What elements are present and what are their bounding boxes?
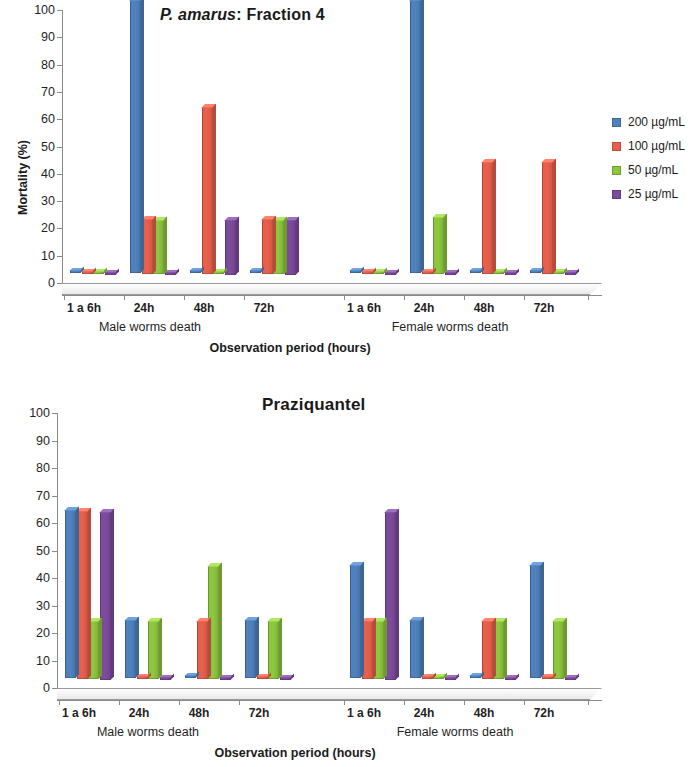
y-tick — [52, 578, 58, 579]
bar-face — [410, 620, 421, 678]
legend-item: 25 µg/mL — [612, 182, 685, 206]
bar-200µgmL-1a6h — [350, 565, 361, 678]
bar-side — [164, 216, 167, 274]
bar-25µgmL-48h — [505, 272, 516, 275]
bar-100µgmL-72h — [542, 676, 553, 679]
group-label-male: Male worms death — [99, 320, 201, 334]
bar-side — [421, 0, 424, 273]
chart-praziquantel: Praziquantel Mortality (%) 0102030405060… — [0, 390, 697, 767]
x-category-label: 72h — [254, 301, 275, 315]
chart1-y-axis-label: Mortality (%) — [16, 140, 30, 215]
y-tick — [52, 633, 58, 634]
x-tick — [588, 700, 589, 705]
bar-100µgmL-48h — [482, 162, 493, 274]
y-tick-label: 100 — [29, 406, 50, 420]
y-tick-label: 0 — [48, 276, 55, 290]
x-category-label: 24h — [129, 706, 150, 720]
bar-side — [421, 617, 424, 678]
bar-side — [99, 618, 102, 679]
y-tick-label: 90 — [41, 30, 55, 44]
y-tick-label: 70 — [36, 489, 50, 503]
bar-25µgmL-72h — [280, 677, 291, 680]
x-tick — [244, 295, 245, 300]
legend-label: 50 µg/mL — [628, 163, 678, 177]
y-tick-label: 0 — [43, 681, 50, 695]
y-tick-label: 90 — [36, 434, 50, 448]
y-tick-label: 20 — [36, 626, 50, 640]
x-axis-line — [62, 295, 602, 296]
bar-face — [410, 0, 421, 273]
chart-floor-edge — [590, 688, 602, 700]
y-tick-label: 50 — [36, 544, 50, 558]
bar-face — [350, 565, 361, 678]
bar-face — [65, 510, 76, 678]
bar-side — [273, 216, 276, 274]
bar-side — [564, 618, 567, 679]
y-tick-label: 60 — [41, 112, 55, 126]
legend-swatch-icon — [612, 166, 621, 175]
bar-100µgmL-24h — [137, 676, 148, 679]
bar-side — [384, 618, 387, 679]
bar-face — [482, 621, 493, 679]
group-label-male: Male worms death — [97, 725, 199, 739]
bar-side — [111, 509, 114, 680]
y-tick-label: 80 — [36, 461, 50, 475]
legend-item: 50 µg/mL — [612, 158, 685, 182]
bar-50µgmL-72h — [553, 621, 564, 679]
bar-face — [202, 107, 213, 274]
legend-swatch-icon — [612, 142, 621, 151]
y-tick — [57, 228, 63, 229]
bar-face — [433, 217, 444, 274]
bar-side — [493, 617, 496, 678]
x-tick — [119, 700, 120, 705]
y-tick — [52, 551, 58, 552]
legend: 200 µg/mL100 µg/mL50 µg/mL25 µg/mL — [612, 110, 685, 206]
y-tick-label: 40 — [36, 571, 50, 585]
y-tick — [52, 606, 58, 607]
bar-side — [361, 562, 364, 678]
bar-200µgmL-24h — [130, 0, 141, 273]
group-label-female: Female worms death — [392, 320, 509, 334]
bar-side — [76, 507, 79, 678]
chart-floor — [57, 688, 590, 700]
x-tick — [59, 700, 60, 705]
bar-25µgmL-72h — [565, 677, 576, 680]
legend-label: 100 µg/mL — [628, 139, 685, 153]
bar-side — [153, 216, 156, 274]
y-tick — [57, 10, 63, 11]
bar-side — [396, 509, 399, 680]
y-tick — [57, 119, 63, 120]
bar-face — [542, 162, 553, 274]
bar-200µgmL-1a6h — [65, 510, 76, 678]
bar-side — [541, 562, 544, 678]
bar-200µgmL-72h — [250, 270, 261, 273]
bar-25µgmL-1a6h — [105, 272, 116, 275]
bar-100µgmL-1a6h — [82, 271, 93, 274]
y-tick — [57, 147, 63, 148]
bar-50µgmL-48h — [213, 271, 224, 274]
x-category-label: 1 a 6h — [62, 706, 96, 720]
bar-side — [213, 104, 216, 274]
bar-25µgmL-24h — [445, 272, 456, 275]
y-tick — [57, 37, 63, 38]
bar-side — [284, 216, 287, 274]
y-tick — [52, 441, 58, 442]
bar-100µgmL-1a6h — [362, 271, 373, 274]
chart-floor — [62, 283, 590, 295]
x-axis-title: Observation period (hours) — [214, 746, 375, 760]
bar-side — [136, 617, 139, 678]
y-tick-label: 30 — [41, 194, 55, 208]
y-tick — [52, 661, 58, 662]
y-tick — [52, 523, 58, 524]
y-tick — [57, 65, 63, 66]
bar-side — [159, 618, 162, 679]
bar-side — [444, 213, 447, 273]
y-tick — [57, 174, 63, 175]
x-category-label: 24h — [414, 301, 435, 315]
bar-200µgmL-72h — [530, 270, 541, 273]
bar-25µgmL-24h — [160, 677, 171, 680]
y-tick-label: 60 — [36, 516, 50, 530]
bar-side — [504, 618, 507, 679]
bar-side — [88, 507, 91, 678]
bar-100µgmL-48h — [482, 621, 493, 679]
